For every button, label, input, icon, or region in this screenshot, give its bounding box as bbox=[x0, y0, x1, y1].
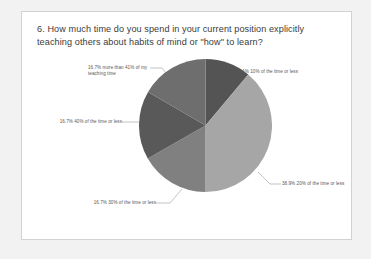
pie-label-1: 11.1% 10% of the time or less bbox=[236, 69, 298, 75]
pie-label-5: 16.7% more than 41% of my teaching time bbox=[88, 65, 150, 78]
pie-graphic bbox=[139, 59, 272, 192]
survey-question-card: 6. How much time do you spend in your cu… bbox=[21, 11, 352, 240]
pie-label-2: 38.9% 20% of the time or less bbox=[282, 181, 344, 187]
screenshot-root: 6. How much time do you spend in your cu… bbox=[0, 0, 371, 259]
page-title: 6. How much time do you spend in your cu… bbox=[37, 23, 337, 49]
pie-chart: 11.1% 10% of the time or less 38.9% 20% … bbox=[22, 56, 351, 239]
pie-label-3: 16.7% 30% of the time or less bbox=[66, 200, 156, 206]
pie-label-4: 16.7% 40% of the time or less bbox=[30, 119, 122, 125]
